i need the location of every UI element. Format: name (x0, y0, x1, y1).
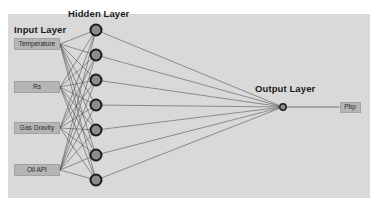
hidden-node-h4[interactable] (91, 100, 102, 111)
hidden-layer-title: Hidden Layer (68, 8, 129, 19)
input-node-label: Rs (33, 84, 41, 91)
output-node-box-1[interactable]: Pbp (340, 102, 361, 113)
output-node-label: Pbp (344, 104, 356, 111)
edge-hidden-5-output-1 (96, 107, 283, 130)
hidden-layer-nodes (91, 25, 102, 186)
edge-hidden-1-output-1 (96, 30, 283, 107)
hidden-node-h7[interactable] (91, 175, 102, 186)
output-node-o1[interactable] (280, 104, 286, 110)
edges-hidden-to-output (96, 30, 283, 180)
input-node-label: Temperature (19, 41, 56, 48)
input-layer-title: Input Layer (14, 24, 66, 35)
diagram-canvas: Input Layer Hidden Layer Output Layer Te… (0, 0, 376, 208)
hidden-node-h5[interactable] (91, 125, 102, 136)
hidden-node-h2[interactable] (91, 50, 102, 61)
hidden-node-h6[interactable] (91, 150, 102, 161)
output-layer-title: Output Layer (255, 83, 315, 94)
edge-hidden-7-output-1 (96, 107, 283, 180)
input-node-box-3[interactable]: Gas Gravity (14, 122, 60, 134)
edge-hidden-4-output-1 (96, 105, 283, 107)
input-node-label: Gas Gravity (20, 125, 54, 132)
edge-hidden-2-output-1 (96, 55, 283, 107)
edge-input-4-hidden-1 (60, 30, 96, 170)
input-node-box-2[interactable]: Rs (14, 81, 60, 93)
input-node-box-1[interactable]: Temperature (14, 38, 60, 50)
edge-hidden-6-output-1 (96, 107, 283, 155)
output-layer-nodes (280, 104, 286, 110)
hidden-node-h1[interactable] (91, 25, 102, 36)
input-node-label: Oil API (27, 167, 47, 174)
hidden-node-h3[interactable] (91, 75, 102, 86)
input-node-box-4[interactable]: Oil API (14, 164, 60, 176)
